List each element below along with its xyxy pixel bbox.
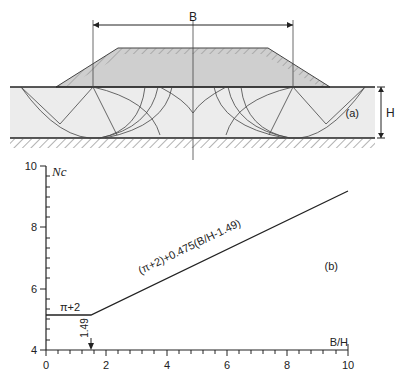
flat-annotation: π+2 bbox=[60, 301, 80, 313]
h-label: H bbox=[386, 106, 395, 120]
rigid-base-hatching bbox=[10, 139, 375, 148]
y-tick-label: 4 bbox=[31, 344, 37, 356]
x-tick-label: 4 bbox=[164, 359, 170, 371]
y-ticks bbox=[40, 176, 50, 350]
x-tick-label: 6 bbox=[224, 359, 230, 371]
y-tick-label: 8 bbox=[31, 221, 37, 233]
y-axis-label: Nc bbox=[51, 164, 67, 179]
h-arrow-bottom-icon bbox=[378, 133, 384, 138]
figure-a-label: (a) bbox=[346, 107, 359, 119]
h-arrow-top-icon bbox=[378, 87, 384, 92]
b-arrow-left-icon bbox=[93, 22, 99, 28]
x-tick-labels: 0 2 4 6 8 10 bbox=[43, 359, 354, 371]
y-tick-labels: 4 6 8 10 bbox=[25, 160, 37, 356]
figure-a-embankment-diagram: B H (a) bbox=[10, 10, 395, 160]
x-tick-label: 0 bbox=[43, 359, 49, 371]
nc-curve bbox=[46, 191, 348, 315]
b-label: B bbox=[189, 10, 197, 24]
x-tick-label: 8 bbox=[284, 359, 290, 371]
figure: B H (a) bbox=[0, 0, 405, 381]
y-tick-label: 10 bbox=[25, 160, 37, 172]
x-tick-label: 2 bbox=[103, 359, 109, 371]
figure-b-chart: 4 6 8 10 0 2 4 6 8 10 Nc B/H π+2 (π+2)+0… bbox=[25, 160, 354, 371]
x-tick-label: 10 bbox=[342, 359, 354, 371]
breakpoint-annotation: 1.49 bbox=[79, 318, 90, 338]
b-arrow-right-icon bbox=[287, 22, 293, 28]
figure-b-label: (b) bbox=[325, 260, 338, 272]
y-tick-label: 6 bbox=[31, 283, 37, 295]
x-axis-label: B/H bbox=[330, 336, 348, 348]
